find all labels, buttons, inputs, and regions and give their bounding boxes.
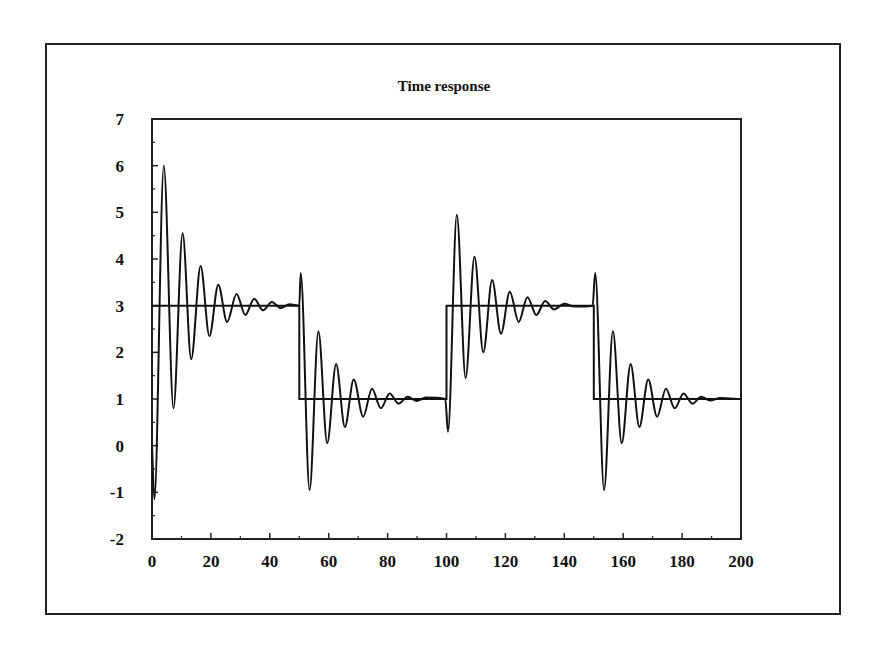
x-tick-label: 20 bbox=[202, 552, 219, 571]
y-tick-label: -1 bbox=[110, 483, 124, 502]
y-tick-label: 7 bbox=[116, 110, 125, 129]
y-tick-label: 1 bbox=[116, 390, 125, 409]
x-tick-label: 180 bbox=[669, 552, 695, 571]
plot-area: 020406080100120140160180200 -2-101234567 bbox=[0, 0, 888, 656]
y-tick-label: 4 bbox=[116, 250, 125, 269]
x-tick-label: 40 bbox=[261, 552, 278, 571]
x-tick-label: 60 bbox=[320, 552, 337, 571]
setpoint-line bbox=[152, 306, 741, 399]
x-tick-label: 100 bbox=[434, 552, 460, 571]
y-tick-label: 6 bbox=[116, 157, 125, 176]
y-tick-label: 0 bbox=[116, 437, 125, 456]
x-tick-label: 140 bbox=[552, 552, 578, 571]
y-tick-label: 2 bbox=[116, 343, 125, 362]
y-tick-label: 3 bbox=[116, 297, 125, 316]
y-axis-tick-labels: -2-101234567 bbox=[110, 110, 125, 549]
y-tick-label: -2 bbox=[110, 530, 124, 549]
x-tick-label: 0 bbox=[148, 552, 157, 571]
x-tick-label: 160 bbox=[610, 552, 636, 571]
x-tick-label: 120 bbox=[493, 552, 519, 571]
x-tick-label: 200 bbox=[728, 552, 754, 571]
x-axis-tick-labels: 020406080100120140160180200 bbox=[148, 552, 754, 571]
y-tick-label: 5 bbox=[116, 203, 125, 222]
x-tick-label: 80 bbox=[379, 552, 396, 571]
